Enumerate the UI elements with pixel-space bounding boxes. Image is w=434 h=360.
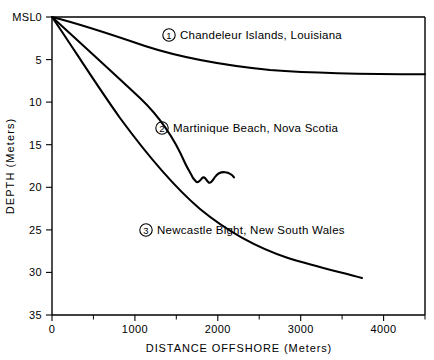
x-tick-label-1000: 1000 bbox=[122, 323, 148, 335]
y-tick-label-30: 30 bbox=[29, 266, 42, 278]
y-tick-label-20: 20 bbox=[29, 181, 42, 193]
series-label-3: Newcastle Bight, New South Wales bbox=[157, 224, 345, 236]
curve-martinique-beach bbox=[52, 17, 234, 183]
marker-2-number: 2 bbox=[159, 123, 164, 134]
y-tick-label-25: 25 bbox=[29, 224, 42, 236]
curve-chandeleur-islands bbox=[52, 17, 425, 74]
y-tick-label-0: 0 bbox=[35, 11, 42, 23]
y-axis-ticks bbox=[46, 17, 52, 315]
marker-1-number: 1 bbox=[166, 30, 171, 41]
y-tick-label-5: 5 bbox=[35, 54, 42, 66]
x-tick-label-2000: 2000 bbox=[205, 323, 231, 335]
x-axis-ticks bbox=[52, 315, 425, 321]
y-axis-tick-labels: MSL 0 5 10 15 20 25 30 35 bbox=[12, 11, 42, 321]
bathymetric-profile-figure: MSL 0 5 10 15 20 25 30 35 0 1000 bbox=[0, 0, 434, 360]
y-tick-label-msl: MSL bbox=[12, 11, 36, 23]
x-axis-tick-labels: 0 1000 2000 3000 4000 bbox=[49, 323, 397, 335]
y-axis-title: DEPTH (Meters) bbox=[4, 118, 16, 215]
series-label-1: Chandeleur Islands, Louisiana bbox=[180, 29, 342, 41]
y-tick-label-10: 10 bbox=[29, 96, 42, 108]
y-tick-label-15: 15 bbox=[29, 139, 42, 151]
x-tick-label-3000: 3000 bbox=[288, 323, 314, 335]
series-label-2: Martinique Beach, Nova Scotia bbox=[173, 122, 338, 134]
axis-frame bbox=[52, 17, 425, 315]
curve-newcastle-bight bbox=[52, 17, 362, 278]
annotation-chandeleur-islands: 1 Chandeleur Islands, Louisiana bbox=[163, 29, 343, 41]
y-tick-label-35: 35 bbox=[29, 309, 42, 321]
x-tick-label-0: 0 bbox=[49, 323, 56, 335]
data-curves bbox=[52, 17, 425, 278]
x-tick-label-4000: 4000 bbox=[371, 323, 397, 335]
annotation-newcastle-bight: 3 Newcastle Bight, New South Wales bbox=[140, 224, 345, 236]
marker-3-number: 3 bbox=[143, 225, 148, 236]
annotation-martinique-beach: 2 Martinique Beach, Nova Scotia bbox=[156, 122, 339, 134]
x-axis-title: DISTANCE OFFSHORE (Meters) bbox=[146, 342, 332, 354]
chart-canvas: MSL 0 5 10 15 20 25 30 35 0 1000 bbox=[0, 0, 434, 360]
